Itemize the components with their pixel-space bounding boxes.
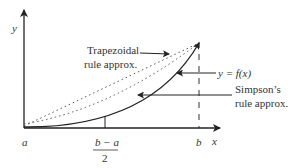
simpson-label-line1: Simpson’s	[235, 83, 281, 95]
trapezoidal-label-line1: Trapezoidal	[87, 44, 139, 56]
y-axis-label: y	[11, 22, 17, 34]
x-axis-label: x	[211, 135, 217, 147]
trapezoid-simpson-diagram: y x Trapezoidal rule approx. y = f(x) Si…	[0, 0, 298, 168]
trapezoidal-pointer	[140, 53, 169, 54]
simpson-label-line2: rule approx.	[235, 97, 288, 109]
trapezoidal-label-line2: rule approx.	[84, 58, 137, 70]
tick-label-b: b	[196, 136, 202, 148]
midpoint-numerator: b − a	[95, 136, 119, 148]
tick-label-a: a	[22, 136, 28, 148]
function-label: y = f(x)	[217, 67, 251, 80]
midpoint-denominator: 2	[102, 152, 108, 164]
